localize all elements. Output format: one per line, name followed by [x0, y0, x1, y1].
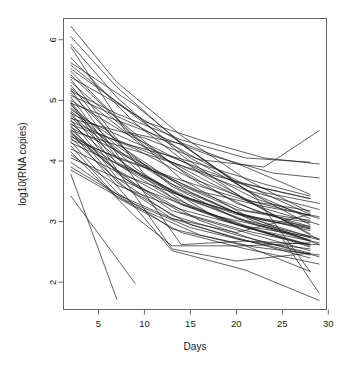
x-tick-label: 30	[323, 318, 334, 329]
x-tick-label: 25	[277, 318, 288, 329]
x-tick-label: 20	[231, 318, 242, 329]
y-tick-label: 4	[47, 158, 58, 163]
series-line	[71, 58, 319, 240]
y-axis-title: log10(RNA copies)	[17, 122, 28, 205]
y-tick-label: 3	[47, 219, 58, 224]
y-tick-label: 6	[47, 37, 58, 42]
x-axis-title: Days	[184, 341, 207, 352]
x-tick-label: 15	[185, 318, 196, 329]
x-tick-label: 5	[96, 318, 101, 329]
series-line	[71, 79, 319, 293]
series-layer	[71, 26, 319, 300]
series-line	[71, 93, 310, 241]
plot-frame	[64, 19, 327, 310]
plot-page: 51015202530 23456 Days log10(RNA copies)	[0, 0, 350, 368]
series-line	[71, 196, 135, 283]
y-tick-label: 5	[47, 98, 58, 103]
series-line	[71, 103, 310, 261]
y-tick-label: 2	[47, 280, 58, 285]
series-line	[71, 174, 117, 299]
spaghetti-plot: 51015202530 23456 Days log10(RNA copies)	[0, 0, 350, 368]
y-axis-ticks: 23456	[47, 37, 64, 285]
x-axis-ticks: 51015202530	[96, 310, 334, 329]
x-tick-label: 10	[139, 318, 150, 329]
